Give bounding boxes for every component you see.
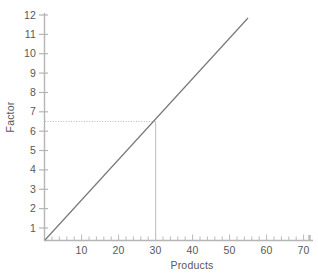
line-chart: 12 11 10 9 8 7 6 5 4 3 2 1 10 20 30 40 5… (0, 0, 318, 275)
y-tick-label: 10 (14, 48, 36, 59)
y-tick-label: 3 (14, 184, 36, 195)
y-tick-label: 9 (14, 68, 36, 79)
x-tick-label: 40 (180, 245, 206, 256)
y-tick-label: 8 (14, 87, 36, 98)
x-axis-minor-ticks (52, 235, 310, 241)
y-tick-label: 5 (14, 145, 36, 156)
y-tick-label: 4 (14, 164, 36, 175)
y-tick-label: 2 (14, 203, 36, 214)
x-tick-label: 20 (106, 245, 132, 256)
x-tick-label: 50 (217, 245, 243, 256)
x-tick-label: 10 (69, 245, 95, 256)
y-tick-label: 12 (14, 10, 36, 21)
x-tick-label: 70 (291, 245, 317, 256)
y-axis-title: Factor (4, 89, 16, 145)
y-tick-label: 1 (14, 223, 36, 234)
x-tick-label: 60 (254, 245, 280, 256)
data-series-line (45, 18, 248, 240)
x-axis-title: Products (89, 259, 295, 271)
y-tick-label: 6 (14, 126, 36, 137)
y-tick-label: 11 (14, 29, 36, 40)
x-tick-label: 30 (143, 245, 169, 256)
y-tick-label: 7 (14, 106, 36, 117)
chart-plot-area (0, 0, 318, 275)
y-axis-ticks (39, 15, 48, 228)
